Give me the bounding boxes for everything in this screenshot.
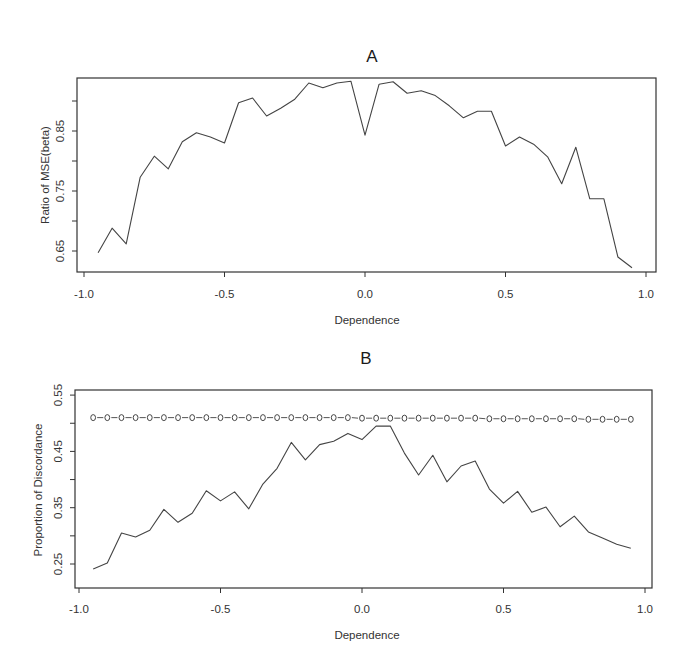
figure: A -1.0-0.50.00.51.0 0.650.750.85 Depende… (0, 0, 680, 654)
circle-marker (119, 415, 124, 421)
circle-marker (445, 415, 450, 421)
circle-marker (204, 415, 209, 421)
circle-marker (246, 415, 251, 421)
x-tick-label: 0.5 (498, 288, 514, 300)
circle-marker (459, 415, 464, 421)
panel-b-discordance-line (93, 426, 631, 569)
circle-marker (529, 416, 534, 422)
circle-marker (416, 415, 421, 421)
y-tick-label: 0.85 (54, 120, 66, 142)
circle-marker (402, 415, 407, 421)
circle-marker (303, 415, 308, 421)
circle-marker (430, 415, 435, 421)
circle-marker (190, 415, 195, 421)
circle-marker (289, 415, 294, 421)
x-tick-label: -1.0 (69, 603, 89, 615)
panel-a-x-axis-label: Dependence (334, 314, 399, 326)
circle-marker (374, 415, 379, 421)
panel-a-title: A (366, 47, 378, 66)
circle-marker (176, 415, 181, 421)
circle-marker (331, 415, 336, 421)
panel-b-x-axis: -1.0-0.50.00.51.0 (69, 588, 653, 615)
circle-marker (572, 416, 577, 422)
x-tick-label: 0.0 (357, 288, 373, 300)
circle-marker (345, 415, 350, 421)
x-tick-label: 1.0 (638, 288, 654, 300)
panel-a-mse-ratio-line (98, 81, 632, 268)
y-tick-label: 0.25 (52, 553, 64, 575)
circle-marker (105, 415, 110, 421)
x-tick-label: 0.5 (496, 603, 512, 615)
panel-a-x-axis: -1.0-0.50.00.51.0 (74, 272, 654, 300)
circle-marker (600, 416, 605, 422)
x-tick-label: 1.0 (637, 603, 653, 615)
circle-marker (501, 416, 506, 422)
circle-marker (515, 416, 520, 422)
circle-marker (614, 416, 619, 422)
marker-dash (479, 418, 485, 419)
circle-marker (147, 415, 152, 421)
circle-marker (317, 415, 322, 421)
y-tick-label: 0.35 (52, 497, 64, 519)
y-tick-label: 0.75 (54, 180, 66, 202)
circle-marker (91, 415, 96, 421)
y-tick-label: 0.45 (52, 440, 64, 462)
panel-b-circle-marker-series (91, 415, 633, 423)
circle-marker (628, 416, 633, 422)
y-tick-label: 0.65 (54, 240, 66, 262)
circle-marker (558, 416, 563, 422)
circle-marker (261, 415, 266, 421)
panel-a-plot-frame (77, 78, 656, 272)
circle-marker (218, 415, 223, 421)
circle-marker (586, 416, 591, 422)
panel-b-x-axis-label: Dependence (334, 629, 399, 641)
circle-marker (487, 416, 492, 422)
circle-marker (544, 416, 549, 422)
marker-dash (578, 419, 584, 420)
panel-b: B -1.0-0.50.00.51.0 0.250.350.450.55 Dep… (32, 349, 653, 641)
panel-a-y-axis-label: Ratio of MSE(beta) (39, 126, 51, 224)
circle-marker (473, 415, 478, 421)
marker-dash (352, 418, 358, 419)
x-tick-label: -0.5 (215, 288, 235, 300)
circle-marker (232, 415, 237, 421)
circle-marker (275, 415, 280, 421)
panel-b-y-axis-label: Proportion of Discordance (32, 424, 44, 557)
circle-marker (388, 415, 393, 421)
x-tick-label: -0.5 (211, 603, 231, 615)
x-tick-label: -1.0 (74, 288, 94, 300)
panel-a-y-axis: 0.650.750.85 (54, 101, 77, 262)
panel-b-y-axis: 0.250.350.450.55 (52, 384, 75, 575)
y-tick-label: 0.55 (52, 384, 64, 406)
circle-marker (162, 415, 167, 421)
circle-marker (360, 415, 365, 421)
panel-b-title: B (360, 349, 371, 368)
x-tick-label: 0.0 (354, 603, 370, 615)
panel-a: A -1.0-0.50.00.51.0 0.650.750.85 Depende… (39, 47, 656, 326)
circle-marker (133, 415, 138, 421)
